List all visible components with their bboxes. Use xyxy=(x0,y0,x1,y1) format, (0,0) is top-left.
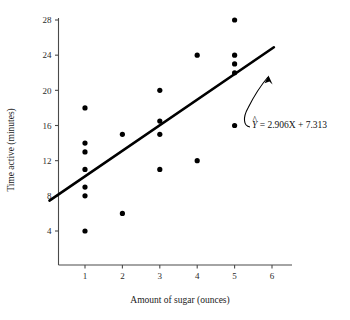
data-point xyxy=(82,149,87,154)
data-point xyxy=(232,17,237,22)
y-tick-label: 24 xyxy=(43,50,53,60)
x-tick-label: 3 xyxy=(158,271,163,281)
data-point xyxy=(82,105,87,110)
y-axis-title: Time active (minutes) xyxy=(6,108,17,192)
regression-equation-label: Y = 2.906X + 7.313 xyxy=(252,120,327,130)
x-tick-label: 6 xyxy=(270,271,275,281)
data-point xyxy=(157,167,162,172)
data-point xyxy=(195,53,200,58)
data-point xyxy=(82,184,87,189)
data-point xyxy=(82,167,87,172)
x-axis-title: Amount of sugar (ounces) xyxy=(130,295,229,306)
data-point xyxy=(82,193,87,198)
plot-canvas: 481216202428 123456 Time active (minutes… xyxy=(0,0,350,320)
y-tick-label: 28 xyxy=(43,15,53,25)
data-point xyxy=(232,53,237,58)
equation-annotation: Y = 2.906X + 7.313 ^ xyxy=(244,76,327,131)
data-point xyxy=(232,61,237,66)
scatter-plot-figure: 481216202428 123456 Time active (minutes… xyxy=(0,0,350,320)
y-tick-label: 4 xyxy=(47,226,52,236)
y-tick-label: 16 xyxy=(43,121,53,131)
axes-group xyxy=(55,18,292,269)
data-point xyxy=(232,123,237,128)
data-point xyxy=(120,132,125,137)
data-point xyxy=(232,70,237,75)
regression-line xyxy=(49,47,273,200)
data-point xyxy=(157,88,162,93)
x-tick-label: 1 xyxy=(83,271,88,281)
y-tick-label: 20 xyxy=(43,86,53,96)
data-point xyxy=(82,140,87,145)
data-point xyxy=(157,132,162,137)
x-tick-label: 5 xyxy=(232,271,237,281)
data-point xyxy=(195,158,200,163)
x-tick-label: 4 xyxy=(195,271,200,281)
y-axis-tick-labels: 481216202428 xyxy=(43,15,53,236)
y-tick-label: 12 xyxy=(43,156,52,166)
data-point xyxy=(82,228,87,233)
x-axis-tick-labels: 123456 xyxy=(83,271,275,281)
data-point xyxy=(157,119,162,124)
data-point xyxy=(120,211,125,216)
x-tick-label: 2 xyxy=(120,271,125,281)
equation-hat-symbol: ^ xyxy=(253,115,258,125)
